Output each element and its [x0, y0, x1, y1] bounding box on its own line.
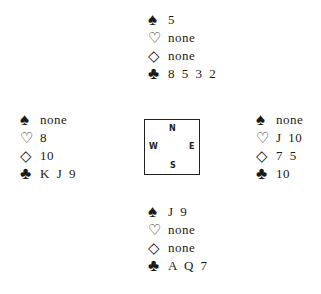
south-clubs-cards: A Q 7	[168, 257, 208, 275]
heart-icon: ♡	[148, 221, 168, 239]
north-hand: ♠ 5 ♡ none ◇ none ♣ 8 5 3 2	[148, 11, 216, 83]
east-spades-cards: none	[276, 111, 303, 129]
compass-south-label: S	[170, 161, 176, 170]
spade-icon: ♠	[256, 111, 276, 129]
east-spades: ♠ none	[256, 111, 303, 129]
heart-icon: ♡	[20, 129, 40, 147]
east-hand: ♠ none ♡ J 10 ◇ 7 5 ♣ 10	[256, 111, 303, 183]
north-clubs: ♣ 8 5 3 2	[148, 65, 216, 83]
south-diamonds-cards: none	[168, 239, 195, 257]
north-hearts: ♡ none	[148, 29, 216, 47]
club-icon: ♣	[20, 165, 40, 183]
south-diamonds: ◇ none	[148, 239, 208, 257]
club-icon: ♣	[148, 65, 168, 83]
east-clubs-cards: 10	[276, 165, 290, 183]
diamond-icon: ◇	[148, 239, 168, 257]
west-hearts: ♡ 8	[20, 129, 76, 147]
north-spades: ♠ 5	[148, 11, 216, 29]
diamond-icon: ◇	[20, 147, 40, 165]
west-spades-cards: none	[40, 111, 67, 129]
spade-icon: ♠	[148, 203, 168, 221]
north-hearts-cards: none	[168, 29, 195, 47]
west-diamonds-cards: 10	[40, 147, 54, 165]
compass-west-label: W	[149, 142, 158, 151]
club-icon: ♣	[256, 165, 276, 183]
west-clubs: ♣ K J 9	[20, 165, 76, 183]
heart-icon: ♡	[148, 29, 168, 47]
diamond-icon: ◇	[256, 147, 276, 165]
west-clubs-cards: K J 9	[40, 165, 76, 183]
diamond-icon: ◇	[148, 47, 168, 65]
north-diamonds: ◇ none	[148, 47, 216, 65]
south-hand: ♠ J 9 ♡ none ◇ none ♣ A Q 7	[148, 203, 208, 275]
south-spades-cards: J 9	[168, 203, 187, 221]
west-hearts-cards: 8	[40, 129, 47, 147]
north-clubs-cards: 8 5 3 2	[168, 65, 216, 83]
spade-icon: ♠	[148, 11, 168, 29]
north-spades-cards: 5	[168, 11, 175, 29]
north-diamonds-cards: none	[168, 47, 195, 65]
east-clubs: ♣ 10	[256, 165, 303, 183]
compass-north-label: N	[169, 124, 176, 133]
south-hearts: ♡ none	[148, 221, 208, 239]
east-diamonds: ◇ 7 5	[256, 147, 303, 165]
west-hand: ♠ none ♡ 8 ◇ 10 ♣ K J 9	[20, 111, 76, 183]
west-diamonds: ◇ 10	[20, 147, 76, 165]
heart-icon: ♡	[256, 129, 276, 147]
spade-icon: ♠	[20, 111, 40, 129]
compass-east-label: E	[189, 142, 194, 151]
south-clubs: ♣ A Q 7	[148, 257, 208, 275]
east-hearts-cards: J 10	[276, 129, 302, 147]
east-diamonds-cards: 7 5	[276, 147, 297, 165]
west-spades: ♠ none	[20, 111, 76, 129]
compass-box: N W E S	[144, 119, 200, 175]
club-icon: ♣	[148, 257, 168, 275]
south-hearts-cards: none	[168, 221, 195, 239]
east-hearts: ♡ J 10	[256, 129, 303, 147]
south-spades: ♠ J 9	[148, 203, 208, 221]
